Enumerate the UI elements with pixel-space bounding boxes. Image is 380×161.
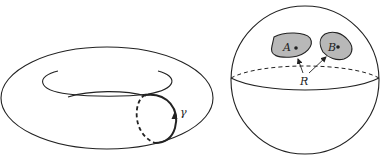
region-b-point (336, 45, 340, 49)
r-label: R (299, 75, 308, 88)
diagram-canvas: γ A B R (0, 0, 380, 161)
torus-figure: γ (1, 47, 213, 149)
gamma-curve-hidden (137, 95, 155, 143)
region-a (271, 33, 311, 57)
arrow-r-to-b (309, 57, 326, 73)
gamma-curve-visible (145, 95, 176, 143)
gamma-label: γ (180, 106, 187, 119)
torus-outer-outline (1, 47, 213, 149)
region-a-label: A (282, 41, 291, 54)
torus-hole-upper-arc (43, 71, 172, 96)
region-a-point (294, 46, 298, 50)
sphere-figure: A B R (231, 6, 379, 154)
region-b-label: B (327, 41, 336, 54)
